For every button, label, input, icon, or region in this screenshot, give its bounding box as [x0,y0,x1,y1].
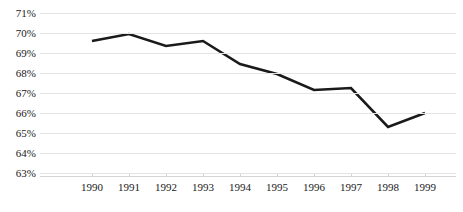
y-tick-label: 69% [2,48,36,59]
gridline [40,153,456,154]
x-tick-label: 1995 [266,181,288,193]
x-tick-label: 1997 [340,181,362,193]
x-tick-label: 1990 [81,181,103,193]
x-tick-label: 1998 [377,181,399,193]
x-tick-label: 1991 [118,181,140,193]
gridline [40,33,456,34]
x-tick-label: 1992 [155,181,177,193]
plot-area [40,0,456,173]
gridline [40,13,456,14]
y-tick-label: 70% [2,28,36,39]
y-tick-label: 65% [2,128,36,139]
y-tick-label: 67% [2,88,36,99]
series-line-group [40,0,456,183]
y-tick-label: 71% [2,8,36,19]
y-axis: 71%70%69%68%67%66%65%64%63% [0,0,36,212]
line-chart: 71%70%69%68%67%66%65%64%63% 199019911992… [0,0,463,212]
gridline [40,133,456,134]
y-tick-label: 63% [2,168,36,179]
x-tick-label: 1999 [414,181,436,193]
x-axis-line [40,176,456,177]
y-tick-label: 66% [2,108,36,119]
gridline [40,173,456,174]
gridline [40,53,456,54]
x-tick-label: 1993 [192,181,214,193]
x-tick-label: 1994 [229,181,251,193]
gridline [40,73,456,74]
y-tick-label: 64% [2,148,36,159]
gridline [40,113,456,114]
x-tick-label: 1996 [303,181,325,193]
y-tick-label: 68% [2,68,36,79]
gridline [40,93,456,94]
